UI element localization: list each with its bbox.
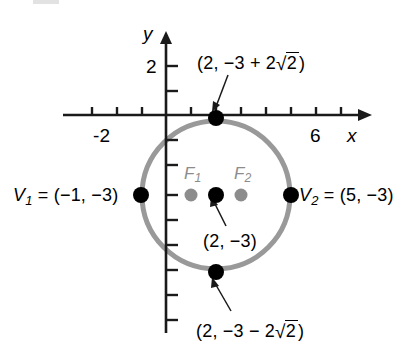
y-axis-ticks — [166, 66, 178, 320]
y-tick-label-2: 2 — [146, 57, 157, 76]
vertex-left-value: = (−1, −3) — [33, 185, 119, 205]
bottom-point-radicand: 2 — [285, 320, 298, 340]
focus-point-f2 — [235, 189, 248, 202]
focus-left-name: F — [184, 164, 194, 183]
leader-bottom — [211, 277, 231, 311]
focus-right-name: F — [234, 164, 244, 183]
circle-figure: y x 2 -2 6 (2, −3 + 2√2) (2, −3 − 2√2) (… — [0, 0, 416, 357]
vertex-right-label: V2 = (5, −3) — [299, 186, 394, 208]
top-point-radical-sign: √ — [276, 53, 287, 74]
x-axis-label: x — [347, 126, 357, 145]
point-center — [208, 187, 224, 203]
top-point-close: ) — [299, 53, 305, 73]
vertex-left-name: V — [13, 185, 25, 205]
leader-top — [212, 75, 228, 112]
focus-right-label: F2 — [234, 165, 251, 185]
point-top — [208, 110, 224, 126]
top-point-sign: −3 + 2 — [224, 53, 276, 73]
bottom-point-radical-sign: √ — [275, 321, 286, 342]
bottom-point-open: (2, — [196, 321, 223, 341]
vertex-right-name: V — [299, 185, 311, 205]
focus-left-subscript: 1 — [194, 171, 201, 185]
bottom-point-sign: −3 − 2 — [223, 321, 275, 341]
vertex-left-label: V1 = (−1, −3) — [13, 186, 118, 208]
focus-point-f1 — [185, 189, 198, 202]
center-point-label: (2, −3) — [203, 232, 257, 250]
point-vertex-right — [283, 187, 299, 203]
point-vertex-left — [133, 187, 149, 203]
y-axis-arrowhead — [160, 31, 172, 44]
top-point-radicand: 2 — [286, 52, 299, 72]
focus-right-subscript: 2 — [244, 171, 251, 185]
top-point-open: (2, — [197, 53, 224, 73]
bottom-point-label: (2, −3 − 2√2) — [196, 320, 304, 340]
y-axis-label: y — [143, 24, 153, 43]
x-tick-label-negative-2: -2 — [93, 126, 110, 145]
x-axis-arrowhead — [358, 109, 372, 121]
x-tick-label-6: 6 — [310, 126, 321, 145]
bottom-point-close: ) — [298, 321, 304, 341]
vertex-right-value: = (5, −3) — [319, 185, 394, 205]
vertex-right-subscript: 2 — [311, 193, 318, 208]
focus-left-label: F1 — [184, 165, 201, 185]
top-point-label: (2, −3 + 2√2) — [197, 52, 305, 72]
vertex-left-subscript: 1 — [25, 193, 32, 208]
point-bottom — [208, 264, 224, 280]
